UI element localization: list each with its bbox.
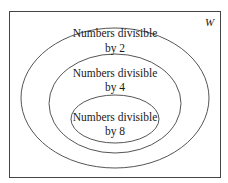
set-div8-label-line1: Numbers divisible [73,111,158,123]
set-div2-label-line1: Numbers divisible [73,27,158,39]
set-div8-label-line2: by 8 [105,125,125,138]
universe-label: W [205,16,215,28]
venn-diagram: W Numbers divisible by 2 Numbers divisib… [0,0,228,183]
set-div2-label-line2: by 2 [105,42,125,55]
set-div4-label-line1: Numbers divisible [73,67,158,79]
set-div4-label-line2: by 4 [105,81,125,94]
